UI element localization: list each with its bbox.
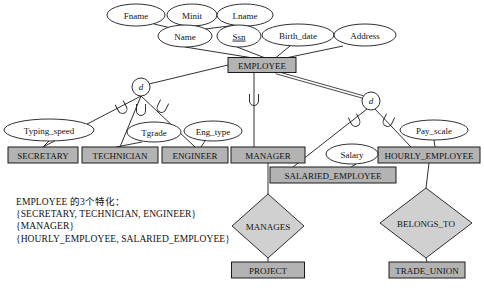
entity-label: PROJECT	[249, 266, 288, 276]
edge-payscale-hourly	[434, 140, 435, 147]
attribute-birth_date[interactable]: Birth_date	[262, 24, 334, 46]
edge-hourly-belongsto	[426, 163, 429, 188]
entity-label: TRADE_UNION	[395, 266, 459, 276]
entity-label: TECHNICIAN	[93, 151, 148, 161]
attribute-label: Eng_type	[196, 127, 231, 137]
attribute-label: Salary	[341, 150, 364, 160]
attribute-salary[interactable]: Salary	[326, 144, 378, 164]
entity-technician[interactable]: TECHNICIAN	[82, 147, 158, 163]
specialization-circle-d-right[interactable]: d	[362, 92, 380, 110]
subset-symbol-technician	[137, 104, 146, 116]
subset-symbol-secretary	[115, 101, 128, 115]
entity-hourly_employee[interactable]: HOURLY_EMPLOYEE	[378, 147, 480, 163]
attribute-label: Ssn	[232, 32, 246, 42]
disjoint-label: d	[369, 96, 374, 106]
edge-employee-d-left	[149, 65, 228, 84]
entity-project[interactable]: PROJECT	[232, 262, 305, 278]
specialization-note: EMPLOYEE 的3个特化： {SECRETARY, TECHNICIAN, …	[16, 196, 230, 245]
entity-label: ENGINEER	[173, 151, 218, 161]
entity-salaried_employee[interactable]: SALARIED_EMPLOYEE	[270, 167, 396, 183]
er-diagram-canvas: MANAGESBELONGS_TOEMPLOYEESECRETARYTECHNI…	[0, 0, 484, 288]
attribute-label: Birth_date	[279, 31, 317, 41]
attribute-pay_scale[interactable]: Pay_scale	[400, 120, 468, 140]
attribute-label: Tgrade	[141, 128, 166, 138]
entity-label: MANAGER	[245, 151, 291, 161]
relationship-label: BELONGS_TO	[397, 219, 455, 229]
entity-employee[interactable]: EMPLOYEE	[228, 58, 296, 73]
entity-label: HOURLY_EMPLOYEE	[384, 151, 474, 161]
entity-label: EMPLOYEE	[238, 61, 286, 71]
attribute-eng_type[interactable]: Eng_type	[184, 121, 242, 141]
subset-symbol-salaried	[348, 114, 361, 128]
entity-secretary[interactable]: SECRETARY	[8, 147, 78, 163]
relationship-belongs_to[interactable]: BELONGS_TO	[380, 188, 472, 258]
attribute-typing_speed[interactable]: Typing_speed	[4, 119, 94, 141]
disjoint-label: d	[139, 82, 144, 92]
attribute-label: Lname	[233, 11, 258, 21]
relationship-manages[interactable]: MANAGES	[232, 194, 304, 258]
subset-symbol-hourly	[382, 114, 395, 128]
attribute-label: Address	[350, 31, 380, 41]
attribute-label: Minit	[182, 11, 203, 21]
edge-tgrade-technician	[116, 142, 142, 147]
entity-label: SALARIED_EMPLOYEE	[285, 171, 382, 181]
edge-birthdate-employee	[276, 46, 290, 58]
specialization-circle-d-left[interactable]: d	[132, 78, 150, 96]
attribute-tgrade[interactable]: Tgrade	[127, 122, 181, 142]
entity-engineer[interactable]: ENGINEER	[162, 147, 228, 163]
attribute-minit[interactable]: Minit	[167, 4, 217, 26]
attribute-address[interactable]: Address	[334, 24, 396, 46]
edge-belongsto-tradeunion	[426, 258, 427, 262]
attribute-label: Typing_speed	[24, 126, 75, 136]
relationship-label: MANAGES	[246, 222, 291, 232]
attribute-lname[interactable]: Lname	[217, 4, 273, 26]
entity-trade_union[interactable]: TRADE_UNION	[389, 262, 465, 278]
attribute-name[interactable]: Name	[158, 25, 212, 47]
entity-label: SECRETARY	[17, 151, 69, 161]
edge-engtype-engineer	[201, 141, 205, 147]
attribute-label: Pay_scale	[416, 126, 452, 136]
attribute-fname[interactable]: Fname	[107, 4, 165, 26]
edge-employee-d-right	[276, 74, 363, 99]
entity-manager[interactable]: MANAGER	[231, 147, 305, 163]
edge-employee-d-right	[276, 71, 363, 96]
attribute-label: Name	[174, 32, 196, 42]
edge-address-employee	[288, 46, 343, 58]
attribute-ssn[interactable]: Ssn	[217, 25, 261, 47]
attribute-label: Fname	[124, 11, 149, 21]
